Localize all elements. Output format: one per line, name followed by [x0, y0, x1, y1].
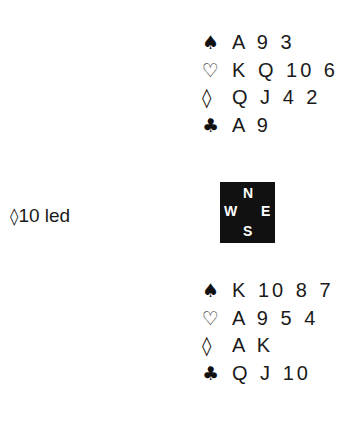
north-spades-cards: A 9 3: [232, 29, 295, 57]
south-spades-row: ♠ K 10 8 7: [202, 277, 334, 305]
south-diamonds-cards: A K: [232, 332, 273, 360]
compass-west: W: [224, 204, 237, 218]
opening-lead: ◊10 led: [10, 205, 70, 227]
club-icon: ♣: [202, 360, 232, 388]
north-diamonds-cards: Q J 4 2: [232, 84, 320, 112]
south-hand: ♠ K 10 8 7 ♡ A 9 5 4 ◊ A K ♣ Q J 10: [202, 277, 334, 387]
north-hand: ♠ A 9 3 ♡ K Q 10 6 ◊ Q J 4 2 ♣ A 9: [202, 29, 338, 139]
diamond-icon: ◊: [202, 84, 232, 112]
heart-icon: ♡: [202, 305, 232, 333]
club-icon: ♣: [202, 112, 232, 140]
south-hearts-cards: A 9 5 4: [232, 305, 318, 333]
south-spades-cards: K 10 8 7: [232, 277, 334, 305]
heart-icon: ♡: [202, 57, 232, 85]
north-diamonds-row: ◊ Q J 4 2: [202, 84, 338, 112]
compass-east: E: [261, 204, 270, 218]
diamond-icon: ◊: [202, 332, 232, 360]
south-clubs-cards: Q J 10: [232, 360, 311, 388]
spade-icon: ♠: [202, 29, 232, 57]
compass-box: N W E S: [220, 182, 275, 243]
compass-north: N: [243, 186, 253, 200]
spade-icon: ♠: [202, 277, 232, 305]
south-clubs-row: ♣ Q J 10: [202, 360, 334, 388]
north-clubs-row: ♣ A 9: [202, 112, 338, 140]
lead-text: 10 led: [18, 205, 70, 226]
compass-south: S: [243, 224, 252, 238]
south-hearts-row: ♡ A 9 5 4: [202, 305, 334, 333]
north-hearts-row: ♡ K Q 10 6: [202, 57, 338, 85]
north-hearts-cards: K Q 10 6: [232, 57, 338, 85]
north-clubs-cards: A 9: [232, 112, 271, 140]
south-diamonds-row: ◊ A K: [202, 332, 334, 360]
north-spades-row: ♠ A 9 3: [202, 29, 338, 57]
